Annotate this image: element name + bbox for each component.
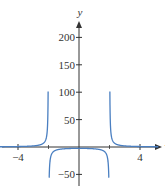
x-tick-label: −4 xyxy=(12,151,24,163)
y-tick-label: 100 xyxy=(59,86,76,98)
curve-middle-left-steep xyxy=(49,161,50,177)
y-tick-label: −50 xyxy=(58,168,76,180)
y-tick-label: 200 xyxy=(59,31,76,43)
curve-right-branch xyxy=(110,91,158,146)
y-axis-arrow-icon xyxy=(76,21,82,28)
y-tick-label: 50 xyxy=(64,114,76,126)
y-tick-label: 150 xyxy=(59,59,76,71)
tick-labels: yx−44−5050100150200 xyxy=(12,6,165,180)
chart: yx−44−5050100150200 xyxy=(0,0,165,191)
x-axis-label: x xyxy=(164,136,165,148)
curve-middle-right-steep xyxy=(108,161,109,177)
curve-left-branch xyxy=(0,91,48,146)
y-axis-label: y xyxy=(77,6,83,18)
x-tick-label: 4 xyxy=(137,151,143,163)
